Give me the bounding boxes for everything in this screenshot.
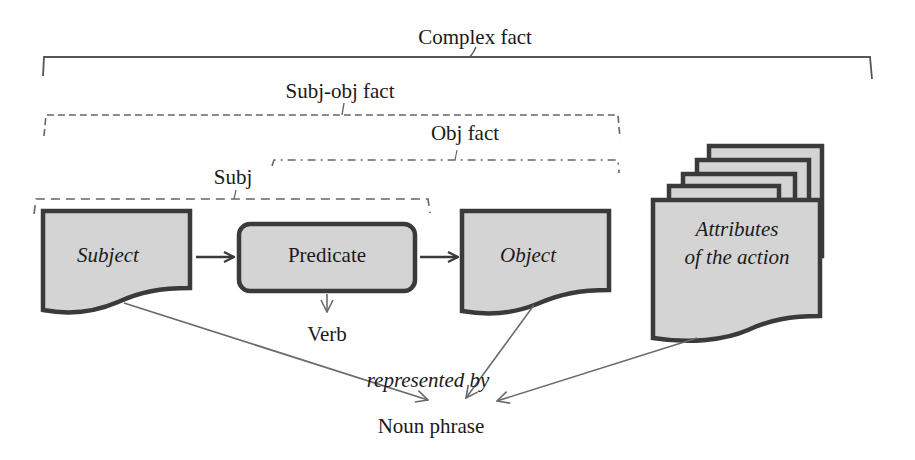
noun-phrase-label: Noun phrase — [378, 414, 485, 438]
complex-fact-label: Complex fact — [418, 25, 532, 49]
predicate-node: Predicate — [239, 224, 415, 291]
obj-fact-label: Obj fact — [431, 121, 499, 145]
subj-obj-fact-bracket — [44, 103, 620, 138]
predicate-label: Predicate — [288, 243, 366, 267]
complex-fact-bracket — [43, 47, 872, 79]
fact-structure-diagram: Complex fact Subj-obj fact Obj fact Subj… — [0, 0, 915, 460]
represented-by-label: represented by — [367, 368, 490, 392]
subject-label: Subject — [77, 243, 140, 267]
verb-label: Verb — [307, 322, 347, 346]
obj-fact-bracket — [272, 150, 619, 173]
object-node: Object — [462, 211, 609, 313]
attributes-label-line1: Attributes — [694, 217, 779, 241]
subj-label: Subj — [214, 165, 253, 189]
object-label: Object — [500, 243, 557, 267]
attributes-node-stack: Attributes of the action — [653, 146, 822, 341]
subj-obj-fact-label: Subj-obj fact — [285, 79, 394, 103]
arrow-attributes-to-noun-phrase — [497, 338, 697, 401]
subject-node: Subject — [43, 211, 190, 312]
attributes-label-line2: of the action — [685, 245, 790, 269]
